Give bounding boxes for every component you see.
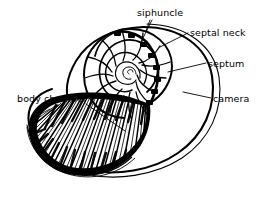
leader-camera [183, 92, 211, 98]
label-body-chamber: body chamber [17, 94, 87, 104]
leader-septum [168, 63, 206, 72]
leader-septal-neck [160, 33, 188, 47]
nautiloid-diagram: siphuncle septal neck septum camera body… [0, 0, 263, 198]
label-siphuncle: siphuncle [137, 8, 183, 18]
label-camera: camera [213, 94, 249, 104]
label-septal-neck: septal neck [190, 28, 246, 38]
label-septum: septum [208, 59, 244, 69]
